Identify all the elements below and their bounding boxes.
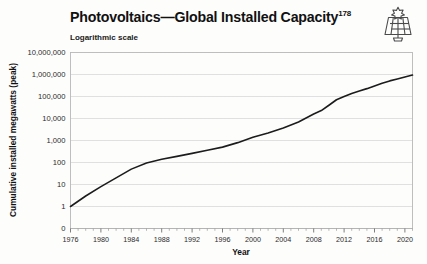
y-tick-label: 10,000,000 <box>27 48 65 57</box>
y-tick-label: 100,000 <box>38 92 65 101</box>
grid-lines <box>71 75 413 229</box>
x-tick-label: 2000 <box>245 235 261 244</box>
y-tick-label: 1 <box>61 202 65 211</box>
x-tick-label: 2008 <box>306 235 322 244</box>
y-tick-label: 100 <box>53 158 66 167</box>
chart-figure: Photovoltaics—Global Installed Capacity1… <box>0 0 427 264</box>
x-tick-label: 1976 <box>63 235 79 244</box>
x-axis-ticks <box>71 229 413 233</box>
y-tick-label: 10 <box>57 180 65 189</box>
chart-plot-area: 10,000,0001,000,000100,00010,0001,000100… <box>0 0 427 264</box>
y-axis-tick-labels: 10,000,0001,000,000100,00010,0001,000100… <box>27 48 65 233</box>
y-axis-title: Cumulative installed megawatts (peak) <box>8 63 18 217</box>
y-tick-label: 1,000,000 <box>32 70 66 79</box>
x-axis-title: Year <box>232 247 250 257</box>
x-tick-label: 1996 <box>215 235 231 244</box>
y-tick-label: 0 <box>61 224 65 233</box>
x-tick-label: 2012 <box>336 235 352 244</box>
y-tick-label: 1,000 <box>46 136 65 145</box>
y-tick-label: 10,000 <box>42 114 65 123</box>
x-tick-label: 1980 <box>93 235 109 244</box>
x-tick-label: 1992 <box>184 235 200 244</box>
x-tick-label: 1984 <box>123 235 139 244</box>
x-tick-label: 2020 <box>397 235 413 244</box>
x-tick-label: 1988 <box>154 235 170 244</box>
x-axis-tick-labels: 1976198019841988199219962000200420082012… <box>63 235 413 244</box>
x-tick-label: 2016 <box>367 235 383 244</box>
x-tick-label: 2004 <box>275 235 291 244</box>
